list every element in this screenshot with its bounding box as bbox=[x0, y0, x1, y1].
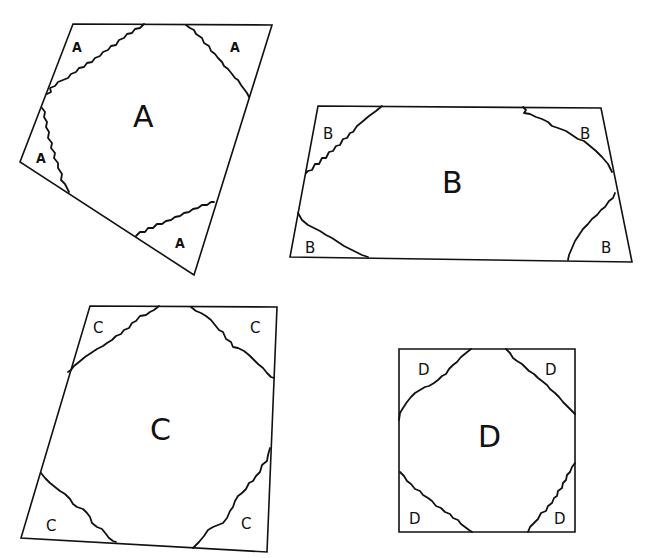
shape-c-bottom-right-boundary bbox=[193, 448, 270, 548]
shape-d-corner-label-top-right: D bbox=[545, 361, 557, 379]
shape-b-corner-label-top-left: B bbox=[323, 125, 333, 143]
shape-a-corner-label-bottom-right: A bbox=[175, 235, 185, 251]
shape-a-outline bbox=[20, 24, 272, 275]
shape-c-outline bbox=[21, 306, 277, 552]
shape-d-top-left-boundary bbox=[399, 349, 471, 420]
shape-a-top-right-boundary bbox=[186, 25, 249, 97]
shape-b: B B B B B bbox=[290, 106, 632, 262]
shape-b-corner-label-top-right: B bbox=[580, 125, 590, 143]
shape-b-corner-label-bottom-right: B bbox=[601, 239, 611, 257]
shape-d-center-label: D bbox=[478, 419, 501, 454]
shape-c-corner-label-bottom-left: C bbox=[46, 517, 56, 535]
shape-d-top-right-boundary bbox=[506, 349, 575, 414]
quadrilateral-diagram: A A A A A B B B B B C C C C C bbox=[0, 0, 657, 558]
shape-a-corner-label-top-right: A bbox=[230, 39, 240, 55]
shape-a-corner-label-bottom-left: A bbox=[36, 150, 46, 166]
shape-c-corner-label-bottom-right: C bbox=[241, 515, 251, 533]
shape-a-top-left-boundary bbox=[47, 24, 144, 94]
shape-c-center-label: C bbox=[150, 412, 171, 447]
shape-d-corner-label-bottom-right: D bbox=[554, 510, 566, 528]
shape-a-corner-label-top-left: A bbox=[72, 39, 82, 55]
shape-d-corner-label-top-left: D bbox=[418, 361, 430, 379]
shape-d-bottom-right-boundary bbox=[528, 463, 575, 532]
shape-a-center-label: A bbox=[133, 99, 154, 134]
shape-b-center-label: B bbox=[442, 165, 463, 200]
shape-b-top-right-boundary bbox=[523, 107, 612, 172]
shape-b-corner-label-bottom-left: B bbox=[305, 239, 315, 257]
shape-c-top-left-boundary bbox=[68, 306, 159, 372]
shape-c-top-right-boundary bbox=[191, 307, 274, 378]
shape-c-corner-label-top-right: C bbox=[250, 319, 260, 337]
shape-a-bottom-right-boundary bbox=[136, 202, 214, 236]
shape-b-top-left-boundary bbox=[306, 106, 382, 173]
shape-c: C C C C C bbox=[21, 306, 277, 552]
shape-a: A A A A A bbox=[20, 24, 272, 275]
shape-d: D D D D D bbox=[399, 349, 575, 532]
shape-c-corner-label-top-left: C bbox=[93, 319, 103, 337]
shape-d-corner-label-bottom-left: D bbox=[409, 510, 421, 528]
